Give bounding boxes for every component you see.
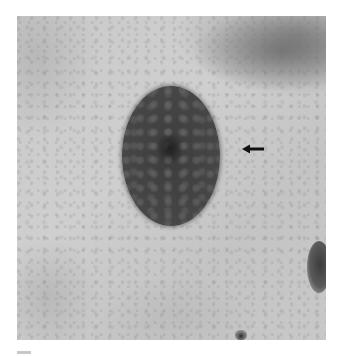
micrograph-image: Grayscale light micrograph of a cell wit… bbox=[17, 16, 326, 340]
dark-particle bbox=[235, 330, 247, 340]
adjacent-dark-body bbox=[307, 241, 326, 293]
nucleus bbox=[122, 86, 220, 226]
scale-mark bbox=[17, 351, 31, 354]
arrow-left-icon bbox=[242, 144, 266, 154]
